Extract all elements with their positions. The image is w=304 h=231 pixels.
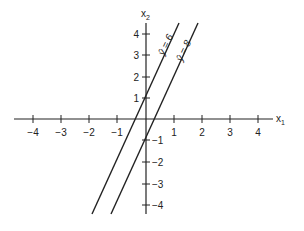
x-tick-label: −1: [111, 127, 123, 138]
x-axis-label: x1: [276, 113, 285, 126]
x-tick-label: −4: [27, 127, 39, 138]
x-tick-label: 4: [255, 127, 261, 138]
x-tick-label: 3: [227, 127, 233, 138]
x-tick-labels: −4 −3 −2 −1 1 2 3 4: [27, 127, 261, 138]
x-tick-label: 1: [171, 127, 177, 138]
line-label-yhat-8: ŷ = 8: [173, 38, 193, 64]
y-tick-label: 2: [133, 72, 139, 83]
x-tick-label: −3: [55, 127, 67, 138]
y-axis-label: x2: [141, 8, 150, 21]
y-tick-label: −1: [152, 135, 164, 146]
x-tick-label: −2: [83, 127, 95, 138]
line-label-yhat-6: ŷ = 6: [155, 32, 175, 58]
x-tick-label: 2: [199, 127, 205, 138]
y-tick-label: −4: [152, 200, 164, 211]
coordinate-diagram: −4 −3 −2 −1 1 2 3 4 4 3 2 1 −1 −2 −3 −4 …: [0, 0, 304, 231]
y-tick-label: 4: [133, 29, 139, 40]
y-tick-label: −3: [152, 179, 164, 190]
y-tick-label: 1: [133, 93, 139, 104]
y-tick-label: 3: [133, 50, 139, 61]
y-tick-label: −2: [152, 157, 164, 168]
